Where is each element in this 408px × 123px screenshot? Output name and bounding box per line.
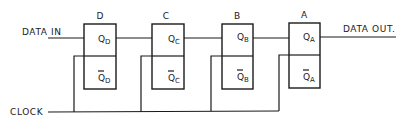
ff-label: C [163, 11, 169, 21]
clock-branch-d [74, 56, 84, 112]
data-in-label: DATA IN [22, 27, 62, 37]
ff-label: A [301, 10, 308, 20]
data-out-label: DATA OUT. [343, 24, 395, 34]
clock-label: CLOCK [10, 107, 44, 117]
clock-branch-a [279, 55, 289, 111]
clock-bus [48, 111, 279, 112]
ff-label: D [97, 11, 104, 21]
flip-flop-d: D QD QD [84, 11, 116, 89]
clock-branch-b [211, 56, 222, 111]
shift-register-diagram: D QD QD C QC QC B QB QB A QA QA DATA IN … [0, 0, 408, 123]
flip-flop-c: C QC QC [152, 11, 184, 89]
flip-flop-a: A QA QA [289, 10, 320, 88]
flip-flop-b: B QB QB [222, 11, 253, 89]
clock-branch-c [141, 56, 152, 112]
ff-label: B [234, 11, 240, 21]
